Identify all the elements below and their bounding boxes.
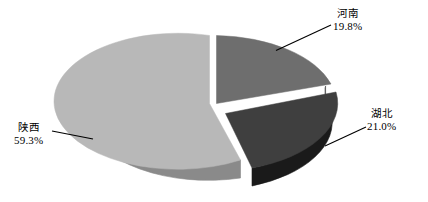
pie-slice-hubei-top [226, 92, 338, 168]
slice-label-shaanxi: 陕西 59.3% [14, 122, 43, 146]
slice-label-hubei: 湖北 21.0% [367, 108, 396, 132]
slice-label-hubei-category: 湖北 [367, 108, 396, 120]
slice-label-henan: 河南 19.8% [333, 8, 362, 32]
slice-label-shaanxi-percent: 59.3% [14, 134, 43, 146]
leader-line-henan [276, 25, 331, 51]
pie-slice-shaanxi-top [54, 33, 240, 169]
pie-chart-graphic [0, 0, 428, 202]
slice-label-shaanxi-category: 陕西 [14, 122, 43, 134]
pie-slice-hubei[interactable] [226, 92, 338, 186]
slice-label-hubei-percent: 21.0% [367, 120, 396, 132]
slice-label-henan-percent: 19.8% [333, 20, 362, 32]
pie-slice-henan-top [217, 36, 332, 104]
pie-chart: 河南 19.8% 湖北 21.0% 陕西 59.3% [0, 0, 428, 202]
pie-slice-shaanxi[interactable] [54, 33, 240, 180]
pie-slice-henan[interactable] [217, 36, 332, 107]
slice-label-henan-category: 河南 [333, 8, 362, 20]
